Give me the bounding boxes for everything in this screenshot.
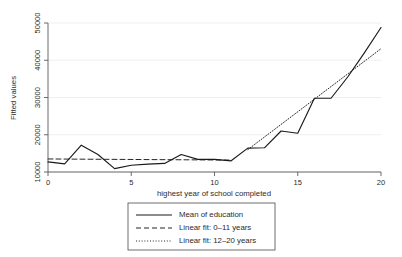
- y-tick-label: 50000: [33, 13, 42, 34]
- x-axis-title: highest year of school completed: [157, 189, 271, 198]
- y-tick-label: 30000: [33, 87, 42, 108]
- chart-figure: 1000020000300004000050000 05101520 Fitte…: [0, 0, 402, 257]
- x-tick-label: 20: [377, 178, 385, 187]
- legend-label: Linear fit: 12–20 years: [179, 236, 256, 245]
- x-tick-label: 5: [129, 178, 133, 187]
- x-tick-label: 10: [210, 178, 218, 187]
- legend-label: Linear fit: 0–11 years: [179, 223, 251, 232]
- y-axis-title: Fitted values: [9, 76, 18, 120]
- x-tick-label: 15: [294, 178, 302, 187]
- x-tick-label: 0: [46, 178, 50, 187]
- chart-legend: Mean of educationLinear fit: 0–11 yearsL…: [128, 203, 275, 250]
- fitted-values-line-chart: 1000020000300004000050000 05101520 Fitte…: [0, 0, 402, 257]
- y-tick-label: 20000: [33, 124, 42, 145]
- y-tick-label: 40000: [33, 50, 42, 71]
- legend-label: Mean of education: [179, 210, 243, 219]
- y-tick-label: 10000: [33, 162, 42, 183]
